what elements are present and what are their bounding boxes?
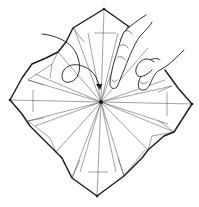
top-corner — [103, 8, 106, 11]
left-corner — [9, 99, 12, 102]
arrowhead-icon — [96, 84, 102, 90]
center-point — [99, 100, 103, 104]
bottom-corner — [96, 195, 99, 198]
diagram-canvas — [0, 0, 199, 207]
origami-diagram — [0, 0, 199, 207]
vertex-dots — [9, 8, 194, 198]
right-corner — [191, 103, 194, 106]
push-arrow — [42, 34, 102, 90]
